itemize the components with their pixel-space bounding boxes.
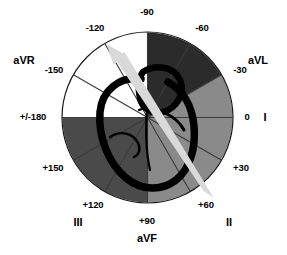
lead-label-I: I <box>263 112 266 123</box>
axis-label-deg-plus-90: +90 <box>139 216 155 226</box>
lead-label-aVR: aVR <box>13 55 34 66</box>
axis-label-deg-plus-120: +120 <box>83 200 104 210</box>
lead-label-III: III <box>73 217 82 228</box>
lead-label-aVL: aVL <box>248 55 268 66</box>
sector-90-to-180 <box>62 118 148 204</box>
axis-label-deg-minus-120: -120 <box>86 23 105 33</box>
lead-label-aVF: aVF <box>137 233 157 244</box>
axis-label-deg-plus-150: +150 <box>43 163 64 173</box>
axis-label-deg-minus-60: -60 <box>195 23 208 33</box>
figure-canvas: -90 -120 -150 +/-180 +150 +120 +90 +60 +… <box>0 0 287 255</box>
axis-label-deg-minus-30: -30 <box>233 65 246 75</box>
axis-label-deg-plus-60: +60 <box>198 200 214 210</box>
axis-label-deg-minus-150: -150 <box>45 65 64 75</box>
lead-label-II: II <box>226 217 232 228</box>
axis-label-deg-minus-90: -90 <box>140 7 153 17</box>
axis-label-deg-plus-30: +30 <box>233 163 249 173</box>
axis-label-deg-plus-minus-180: +/-180 <box>20 112 47 122</box>
axis-label-deg-zero: 0 <box>244 112 249 122</box>
